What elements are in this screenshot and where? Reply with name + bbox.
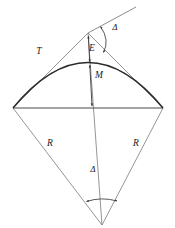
- radius-right-line: [102, 108, 163, 225]
- label-delta-bottom: Δ: [89, 164, 95, 174]
- delta-angle-arc-bottom: [87, 199, 118, 202]
- label-external-distance: E: [88, 43, 95, 53]
- label-middle-ordinate: M: [94, 70, 104, 80]
- label-tangent: T: [36, 46, 42, 56]
- back-tangent-line: [13, 33, 88, 108]
- label-radius-left: R: [46, 138, 53, 148]
- curve-arc: [13, 63, 163, 109]
- label-delta-top: Δ: [111, 22, 117, 32]
- label-radius-right: R: [132, 138, 139, 148]
- diagram-canvas: T E M R R Δ Δ: [0, 0, 175, 228]
- radius-left-line: [13, 108, 102, 225]
- curve-geometry-diagram: T E M R R Δ Δ: [0, 0, 175, 228]
